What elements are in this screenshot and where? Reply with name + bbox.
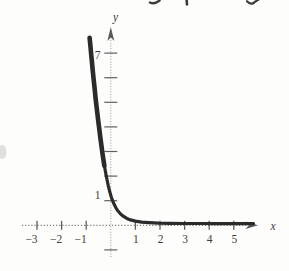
x-tick-label: 4 — [207, 233, 213, 245]
cropped-glyph-fragment — [150, 1, 160, 4]
y-axis-label: y — [112, 11, 119, 24]
cropped-text-fragments — [150, 0, 259, 4]
scanned-graph-figure: −3−2−11234571 y x — [0, 0, 289, 271]
y-tick-label: 7 — [95, 49, 101, 61]
x-tick-label: 5 — [231, 233, 237, 245]
x-tick-label: 1 — [133, 233, 139, 245]
x-tick-label: −1 — [75, 233, 87, 245]
exponential-decay-plot: −3−2−11234571 y x — [0, 0, 289, 271]
y-tick-label: 1 — [95, 189, 101, 201]
tick-labels: −3−2−11234571 — [25, 49, 237, 245]
x-axis-label: x — [270, 220, 277, 232]
y-axis-arrowhead — [107, 27, 114, 41]
scan-smudge — [0, 145, 7, 159]
x-tick-label: 2 — [158, 233, 164, 245]
cropped-glyph-fragment — [247, 0, 259, 4]
exponential-curve — [90, 38, 254, 224]
x-tick-label: 3 — [182, 233, 188, 245]
x-tick-label: −3 — [25, 233, 37, 245]
x-tick-label: −2 — [50, 233, 62, 245]
